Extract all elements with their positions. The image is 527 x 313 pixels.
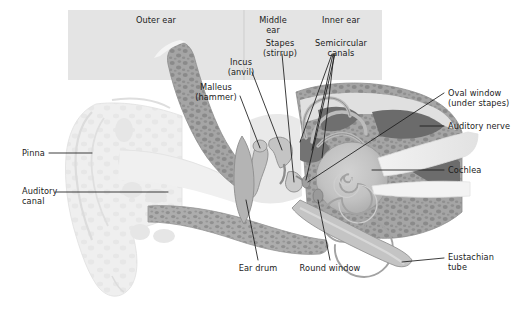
callout-malleus-line2: (hammer) — [180, 92, 252, 102]
callout-incus-line1: Incus — [211, 57, 271, 67]
callout-oval-window-line1: Oval window — [448, 88, 501, 98]
callout-oval-window-line2: (under stapes) — [448, 98, 509, 108]
callout-auditory-canal-line1: Auditory — [22, 186, 58, 196]
callout-ear-drum: Ear drum — [222, 263, 294, 273]
callout-eustachian-tube-line1: Eustachian — [448, 252, 494, 262]
callout-incus-line2: (anvil) — [211, 67, 271, 77]
callout-eustachian-tube-line2: tube — [448, 262, 467, 272]
callout-round-window: Round window — [289, 263, 371, 273]
callout-semicircular-canals-line2: canals — [303, 48, 379, 58]
pinna-shape — [65, 98, 182, 296]
ear-anatomy-figure: Outer ear Middle ear Inner ear Stapes (s… — [0, 0, 527, 313]
callout-pinna: Pinna — [22, 148, 45, 158]
callout-malleus-line1: Malleus — [180, 82, 252, 92]
callout-stapes-line1: Stapes — [249, 38, 311, 48]
region-label-inner-ear: Inner ear — [310, 15, 372, 25]
region-label-middle-ear-line2: ear — [250, 25, 296, 35]
callout-cochlea: Cochlea — [448, 165, 481, 175]
region-label-outer-ear: Outer ear — [116, 15, 196, 25]
callout-auditory-nerve: Auditory nerve — [448, 121, 510, 131]
callout-semicircular-canals-line1: Semicircular — [303, 38, 379, 48]
callout-auditory-canal-line2: canal — [22, 196, 45, 206]
oval-window-shape — [302, 176, 310, 188]
region-label-middle-ear-line1: Middle — [250, 15, 296, 25]
